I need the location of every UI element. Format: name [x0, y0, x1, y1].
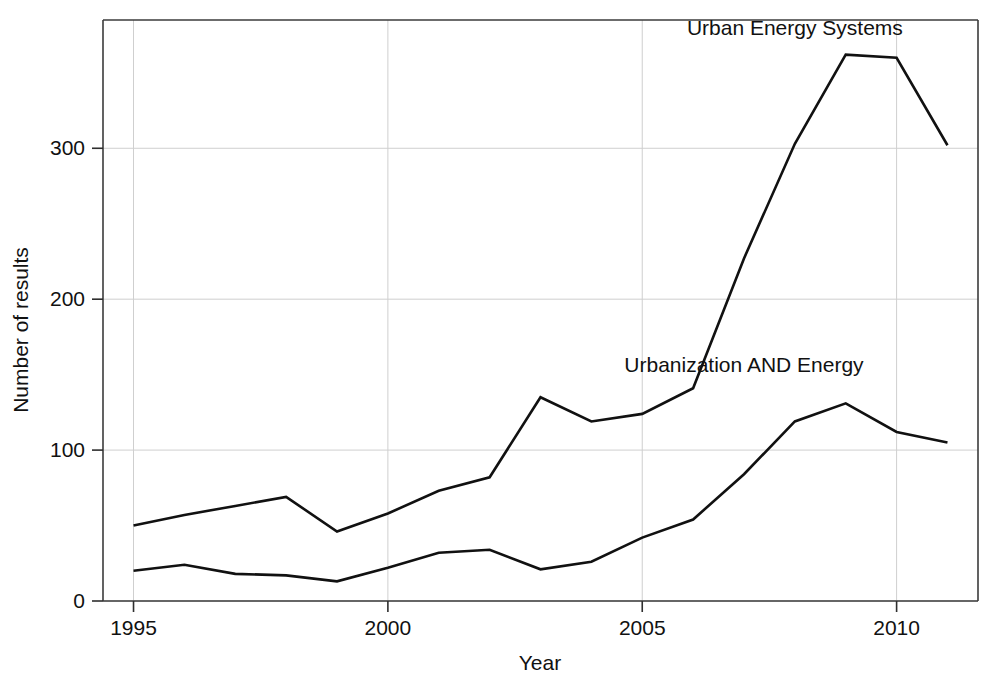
- x-tick-label: 2005: [619, 616, 666, 639]
- line-chart: 1995200020052010 0100200300 Urban Energy…: [0, 0, 998, 695]
- x-tick-label: 2000: [365, 616, 412, 639]
- series-line-1: [134, 55, 948, 532]
- series-line-2: [134, 403, 948, 581]
- tick-marks: [92, 148, 897, 612]
- series-labels: Urban Energy SystemsUrbanization AND Ene…: [624, 16, 902, 376]
- chart-figure: 1995200020052010 0100200300 Urban Energy…: [0, 0, 998, 695]
- x-tick-label: 1995: [110, 616, 157, 639]
- y-tick-labels: 0100200300: [50, 136, 85, 612]
- y-tick-label: 200: [50, 287, 85, 310]
- axis-lines: [103, 20, 978, 601]
- x-tick-labels: 1995200020052010: [110, 616, 920, 639]
- grid-lines: [103, 20, 978, 601]
- x-axis-title: Year: [519, 651, 561, 674]
- x-tick-label: 2010: [873, 616, 920, 639]
- series-label-2: Urbanization AND Energy: [624, 353, 864, 376]
- y-tick-label: 0: [73, 589, 85, 612]
- series-label-1: Urban Energy Systems: [687, 16, 903, 39]
- data-series: [134, 55, 948, 582]
- y-tick-label: 300: [50, 136, 85, 159]
- y-axis-title: Number of results: [9, 247, 32, 413]
- y-tick-label: 100: [50, 438, 85, 461]
